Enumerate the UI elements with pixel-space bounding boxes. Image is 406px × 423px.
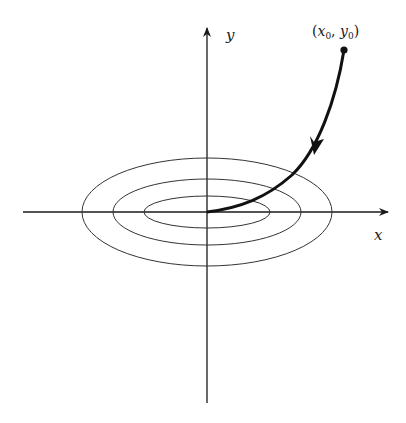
y-axis-label: y <box>225 26 235 44</box>
trajectory-curve <box>207 50 344 212</box>
x-axis-label: x <box>374 226 383 244</box>
phase-plane-diagram: y x (x0, y0) <box>0 0 406 423</box>
start-point-label: (x0, y0) <box>312 23 359 41</box>
start-point <box>340 46 347 53</box>
